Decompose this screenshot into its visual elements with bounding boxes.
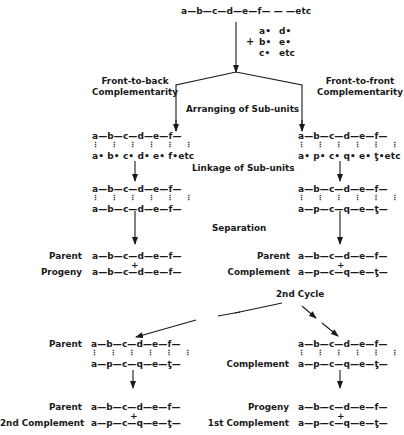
step-linkage: Linkage of Sub-units bbox=[192, 163, 294, 173]
left-branch-title-2: Complementarity bbox=[90, 87, 180, 97]
split-connector bbox=[176, 72, 302, 131]
left-arrange-bonds: ⋮ ⋮ ⋮ ⋮ ⋮ ⋮ bbox=[92, 141, 197, 149]
left-sep-label-parent: Parent bbox=[0, 251, 82, 261]
cycle2-right-label: Complement bbox=[200, 359, 289, 369]
cycle2-left-bonds: ⋮ ⋮ ⋮ ⋮ ⋮ ⋮ bbox=[91, 349, 196, 357]
left-link-bonds: ⋮ ⋮ ⋮ ⋮ ⋮ ⋮ bbox=[92, 194, 197, 202]
left-arrange-template: a—b—c—d—e—f— bbox=[92, 131, 182, 141]
subunit-d: d• bbox=[279, 26, 291, 36]
left-link-template: a—b—c—d—e—f— bbox=[92, 184, 182, 194]
right-sep-label-complement: Complement bbox=[200, 267, 290, 277]
cycle-left-arrow-seg1 bbox=[235, 303, 282, 313]
right-sep-label-parent: Parent bbox=[200, 251, 290, 261]
left-branch-title-1: Front-to-back bbox=[90, 76, 180, 86]
right-link-template: a—b—c—d—e—f— bbox=[298, 184, 388, 194]
left-sep-chain-progeny: a—b—c—d—e—f— bbox=[92, 267, 182, 277]
cycle2-right-top: a—b—c—d—e—f— bbox=[298, 339, 388, 349]
cycle-left-arrow-seg2 bbox=[218, 312, 240, 316]
right-branch-title-1: Front-to-front bbox=[315, 76, 404, 86]
right-arrange-template: a—b—c—d—e—f— bbox=[298, 131, 388, 141]
left-link-copy: a—b—c—d—e—f— bbox=[92, 204, 182, 214]
plus-sign: + bbox=[246, 37, 254, 47]
subunit-etc: etc bbox=[279, 48, 295, 58]
cycle-left-arrow-seg3 bbox=[136, 320, 196, 337]
cycle2-right-res-label-1st-complement: 1st Complement bbox=[200, 418, 289, 428]
cycle2-right-bonds: ⋮ ⋮ ⋮ ⋮ ⋮ ⋮ bbox=[298, 349, 403, 357]
step-second-cycle: 2nd Cycle bbox=[276, 289, 324, 299]
cycle2-left-res-label-parent: Parent bbox=[0, 402, 82, 412]
left-arrange-subunits: a• b• c• d• e• f•etc bbox=[92, 151, 194, 161]
right-arrange-subunits: a• p• c• q• e• ƫ•etc bbox=[298, 151, 401, 161]
cycle2-right-res-label-progeny: Progeny bbox=[200, 402, 289, 412]
step-separation: Separation bbox=[212, 223, 266, 233]
diagram-connectors bbox=[0, 0, 404, 435]
right-sep-chain-complement: a—p—c—q—e—ƫ— bbox=[298, 267, 388, 277]
subunit-c: c• bbox=[259, 48, 270, 58]
cycle2-left-label: Parent bbox=[0, 339, 82, 349]
cycle2-left-bottom: a—p—c—q—e—ƫ— bbox=[91, 359, 181, 369]
cycle2-right-res-chain-1st-complement: a—p—c—q—e—ƫ— bbox=[298, 418, 388, 428]
cycle2-left-res-label-2nd-complement: 2nd Complement bbox=[0, 418, 82, 428]
cycle2-left-res-chain-2nd-complement: a—p—c—q—e—ƫ— bbox=[91, 418, 181, 428]
right-branch-title-2: Complementarity bbox=[315, 87, 404, 97]
subunit-b: b• bbox=[259, 37, 271, 47]
subunit-e: e• bbox=[279, 37, 291, 47]
step-arranging: Arranging of Sub-units bbox=[186, 104, 299, 114]
subunit-a: a• bbox=[259, 26, 271, 36]
cycle-right-arrow-seg2 bbox=[322, 323, 338, 336]
cycle2-right-bottom: a—p—c—q—e—ƫ— bbox=[298, 359, 388, 369]
left-sep-label-progeny: Progeny bbox=[0, 267, 82, 277]
template-polymer: a—b—c—d—e—f— — —etc bbox=[181, 6, 311, 16]
right-link-complement: a—p—c—q—e—ƫ— bbox=[298, 204, 388, 214]
right-link-bonds: ⋮ ⋮ ⋮ ⋮ ⋮ ⋮ bbox=[298, 194, 403, 202]
cycle2-left-top: a—b—c—d—e—f— bbox=[91, 339, 181, 349]
right-arrange-bonds: ⋮ ⋮ ⋮ ⋮ ⋮ ⋮ bbox=[298, 141, 403, 149]
cycle-right-arrow-seg1 bbox=[302, 306, 316, 318]
